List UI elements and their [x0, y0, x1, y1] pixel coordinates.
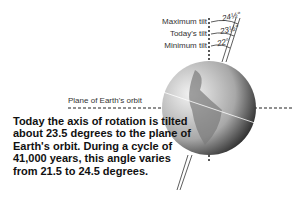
caption-text: Today the axis of rotation is tilted abo… [13, 115, 193, 177]
max-tilt-label: Maximum tilt [137, 17, 207, 27]
today-tilt-label: Today's tilt [137, 29, 207, 39]
min-tilt-label: Minimum tilt [137, 41, 207, 51]
orbit-plane-label: Plane of Earth's orbit [68, 96, 142, 105]
